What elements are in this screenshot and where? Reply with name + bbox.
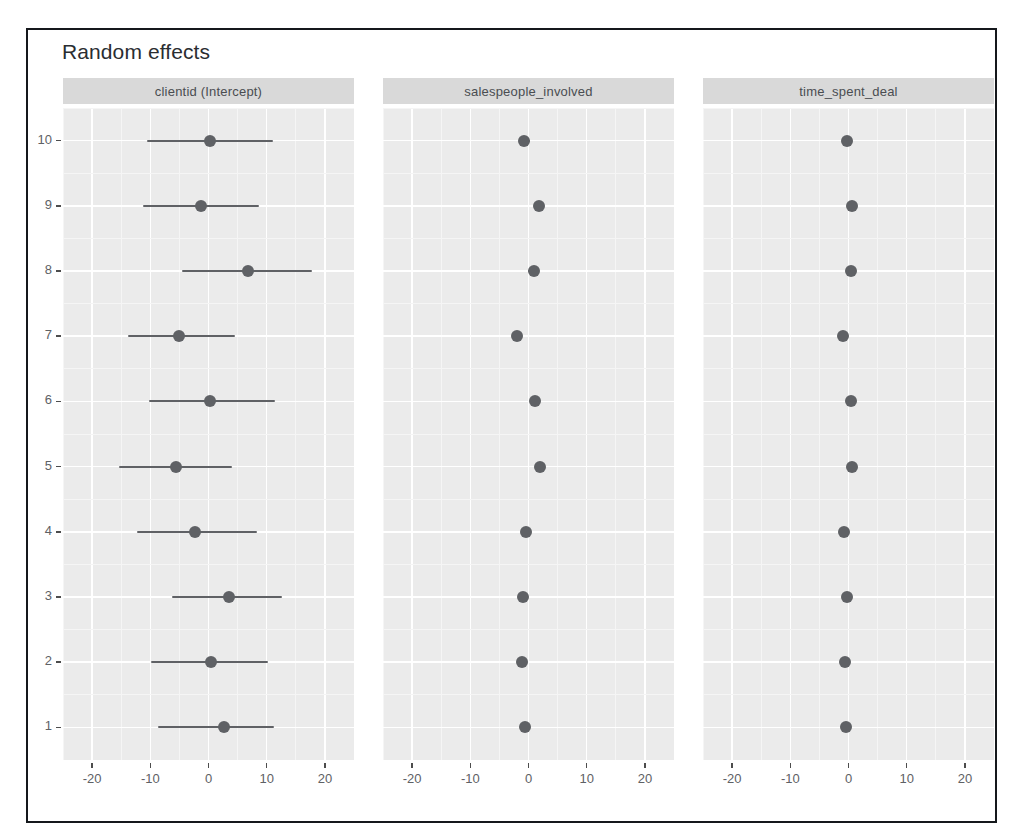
data-point[interactable] [841,135,853,147]
gridline-horizontal-minor [703,499,994,500]
y-axis-tick-label: 4 [22,523,52,538]
gridline-horizontal-minor [703,564,994,565]
data-point[interactable] [845,395,857,407]
y-axis-tick-mark [56,466,61,468]
gridline-horizontal-minor [703,434,994,435]
gridline-horizontal-minor [383,238,674,239]
y-axis-tick-label: 9 [22,197,52,212]
gridline-horizontal-minor [383,760,674,761]
data-point[interactable] [838,526,850,538]
x-axis-tick-mark [964,763,966,768]
x-axis-tick-mark [906,763,908,768]
gridline-horizontal-minor [63,108,354,109]
x-axis-tick-mark [644,763,646,768]
data-point[interactable] [837,330,849,342]
gridline-horizontal-minor [703,108,994,109]
gridline-horizontal-major [383,205,674,207]
gridline-horizontal-minor [383,173,674,174]
x-axis-tick-label: 0 [829,771,869,786]
y-axis-tick-label: 6 [22,392,52,407]
data-point[interactable] [528,265,540,277]
data-point[interactable] [204,135,216,147]
gridline-horizontal-minor [63,173,354,174]
data-point[interactable] [520,526,532,538]
data-point[interactable] [529,395,541,407]
gridline-horizontal-minor [63,368,354,369]
x-axis-tick-mark [528,763,530,768]
y-axis-tick-mark [56,596,61,598]
facet-strip-label: salespeople_involved [464,84,592,99]
x-axis-tick-label: -10 [770,771,810,786]
gridline-horizontal-minor [63,760,354,761]
x-axis-tick-label: -10 [130,771,170,786]
y-axis-tick-mark [56,205,61,207]
data-point[interactable] [840,721,852,733]
x-axis-tick-mark [586,763,588,768]
y-axis-tick-label: 5 [22,458,52,473]
data-point[interactable] [189,526,201,538]
x-axis-tick-mark [324,763,326,768]
data-point[interactable] [533,200,545,212]
gridline-horizontal-minor [63,303,354,304]
gridline-horizontal-minor [383,368,674,369]
data-point[interactable] [845,265,857,277]
x-axis-tick-label: -20 [72,771,112,786]
data-point[interactable] [223,591,235,603]
x-axis-tick-mark [731,763,733,768]
data-point[interactable] [534,461,546,473]
facet-panel-2 [703,108,994,760]
y-axis-tick-label: 7 [22,327,52,342]
data-point[interactable] [841,591,853,603]
random-effects-plot: Random effects clientid (Intercept)sales… [0,0,1015,840]
x-axis-tick-label: -10 [450,771,490,786]
data-point[interactable] [518,135,530,147]
x-axis-tick-label: 20 [945,771,985,786]
y-axis-tick-label: 10 [22,132,52,147]
gridline-horizontal-minor [63,564,354,565]
facet-strip-label: time_spent_deal [799,84,897,99]
x-axis-tick-label: 0 [509,771,549,786]
gridline-horizontal-minor [383,564,674,565]
data-point[interactable] [242,265,254,277]
x-axis-tick-label: 10 [567,771,607,786]
gridline-horizontal-major [383,661,674,663]
data-point[interactable] [173,330,185,342]
data-point[interactable] [846,200,858,212]
x-axis-tick-mark [848,763,850,768]
data-point[interactable] [516,656,528,668]
data-point[interactable] [218,721,230,733]
x-axis-tick-mark [470,763,472,768]
gridline-horizontal-major [383,466,674,468]
gridline-horizontal-minor [703,238,994,239]
gridline-horizontal-minor [63,238,354,239]
y-axis-tick-mark [56,531,61,533]
x-axis-tick-mark [411,763,413,768]
y-axis-tick-label: 1 [22,718,52,733]
facet-strip-0: clientid (Intercept) [63,78,354,104]
gridline-horizontal-minor [703,173,994,174]
gridline-horizontal-minor [383,629,674,630]
data-point[interactable] [846,461,858,473]
data-point[interactable] [511,330,523,342]
x-axis-tick-mark [266,763,268,768]
x-axis-tick-mark [91,763,93,768]
gridline-horizontal-minor [383,108,674,109]
gridline-horizontal-minor [63,694,354,695]
data-point[interactable] [170,461,182,473]
data-point[interactable] [204,395,216,407]
y-axis-tick-mark [56,661,61,663]
data-point[interactable] [195,200,207,212]
data-point[interactable] [205,656,217,668]
gridline-horizontal-minor [703,303,994,304]
y-axis-tick-mark [56,727,61,729]
facet-panel-1 [383,108,674,760]
y-axis-tick-mark [56,401,61,403]
y-axis-tick-label: 8 [22,262,52,277]
y-axis-tick-mark [56,335,61,337]
gridline-horizontal-minor [703,629,994,630]
x-axis-tick-label: 20 [305,771,345,786]
gridline-horizontal-minor [383,434,674,435]
x-axis-tick-mark [790,763,792,768]
y-axis-tick-label: 2 [22,653,52,668]
gridline-horizontal-minor [63,434,354,435]
